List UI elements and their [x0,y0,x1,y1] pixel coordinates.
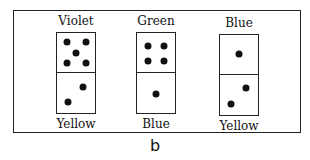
domino-group-3: Blue Yellow [199,16,279,133]
domino [56,32,96,114]
pip [161,58,168,65]
domino [219,34,259,116]
domino-bottom-label: Yellow [199,119,279,133]
domino-top-half [137,33,175,73]
domino [136,32,176,114]
pip [228,100,235,107]
pip [73,49,80,56]
figure-caption: b [150,136,160,155]
pip [82,39,89,46]
pip [153,90,160,97]
pip [161,43,168,50]
pip [79,84,86,91]
pip [144,58,151,65]
domino-bottom-half [57,73,95,113]
pip [65,98,72,105]
domino-top-half [220,35,258,75]
domino-top-label: Violet [36,14,116,28]
domino-group-1: Violet Yellow [36,14,116,131]
figure-frame: Violet Yellow Green [13,10,301,133]
domino-group-2: Green Blue [116,14,196,131]
domino-top-label: Blue [199,16,279,30]
domino-top-label: Green [116,14,196,28]
pip [63,59,70,66]
domino-bottom-label: Yellow [36,117,116,131]
domino-bottom-half [220,75,258,115]
pip [236,50,243,57]
domino-bottom-label: Blue [116,117,196,131]
domino-top-half [57,33,95,73]
pip [144,43,151,50]
pip [82,59,89,66]
pip [242,85,249,92]
pip [63,39,70,46]
domino-bottom-half [137,73,175,113]
